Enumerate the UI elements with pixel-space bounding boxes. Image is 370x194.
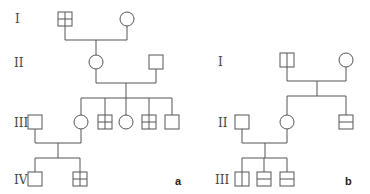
panel-b-generation-label-III: III [215, 173, 229, 187]
male-square-a-II-2 [149, 55, 163, 69]
male-square-a-III-5 [142, 115, 156, 129]
male-square-b-I-1 [280, 53, 294, 67]
panel-b-generation-label-II: II [218, 116, 228, 130]
female-circle-a-II-1 [89, 55, 103, 69]
panel-b-label: b [345, 175, 352, 187]
male-square-b-III-3 [280, 172, 294, 186]
male-square-b-II-1 [235, 115, 249, 129]
male-square-a-III-3 [98, 115, 112, 129]
male-square-b-III-1 [235, 172, 249, 186]
pedigree-symbols [28, 12, 353, 186]
male-square-a-IV-2 [73, 172, 87, 186]
pedigree-lines [35, 26, 346, 172]
panel-a-generation-label-IV: IV [14, 173, 28, 187]
male-square-a-IV-1 [28, 172, 42, 186]
female-circle-a-I-2 [120, 12, 134, 26]
female-circle-a-III-2 [74, 115, 88, 129]
female-circle-a-III-4 [119, 115, 133, 129]
male-square-b-III-2 [257, 172, 271, 186]
male-square-a-III-6 [165, 115, 179, 129]
pedigree-diagram: I II III IV a I II III b [0, 0, 370, 194]
female-circle-b-II-2 [280, 115, 294, 129]
panel-a-generation-label-I: I [15, 12, 20, 26]
male-square-a-III-1 [28, 115, 42, 129]
male-square-a-I-1 [58, 12, 72, 26]
panel-b-generation-label-I: I [218, 55, 223, 69]
male-square-b-II-3 [339, 115, 353, 129]
panel-a-generation-label-III: III [14, 116, 28, 130]
female-circle-b-I-2 [339, 53, 353, 67]
panel-a-label: a [175, 175, 182, 187]
panel-a-generation-label-II: II [14, 56, 24, 70]
